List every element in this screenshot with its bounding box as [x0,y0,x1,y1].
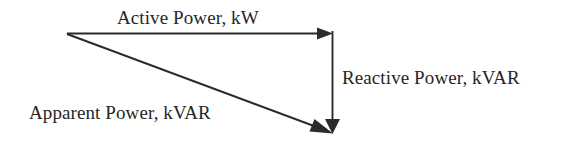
reactive-power-label: Reactive Power, kVAR [342,68,520,87]
reactive-power-vector [325,31,340,134]
active-power-arrowhead [317,28,333,40]
power-triangle-figure: Active Power, kW Reactive Power, kVAR Ap… [0,0,563,150]
active-power-vector [67,28,333,40]
apparent-power-label: Apparent Power, kVAR [29,103,211,122]
active-power-label: Active Power, kW [117,8,259,27]
